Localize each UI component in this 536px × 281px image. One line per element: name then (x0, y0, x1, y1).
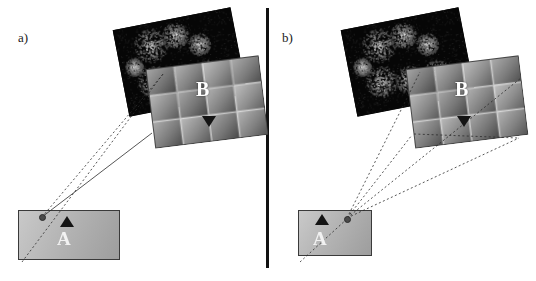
panel-divider (266, 8, 269, 268)
slab-marker-arrow-panel-b (315, 214, 329, 225)
figure-canvas: a) b) B A (0, 0, 536, 281)
panel-label-a: a) (18, 30, 28, 46)
slab-marker-label-panel-a: A (57, 228, 71, 250)
panel-label-b: b) (282, 30, 293, 46)
mosaic-marker-arrow-panel-a (202, 116, 216, 127)
mosaic-marker-label-panel-a: B (196, 78, 209, 101)
slab-marker-arrow-panel-a (60, 216, 74, 227)
sample-slab-panel-b (298, 210, 372, 256)
probe-dot-panel-a (39, 214, 46, 221)
mosaic-marker-label-panel-b: B (455, 78, 468, 101)
probe-dot-panel-b (344, 216, 351, 223)
mosaic-marker-arrow-panel-b (457, 116, 471, 127)
slab-marker-label-panel-b: A (313, 228, 327, 250)
tile-mosaic-panel-a (146, 55, 269, 148)
tile-mosaic-panel-b (406, 55, 529, 148)
